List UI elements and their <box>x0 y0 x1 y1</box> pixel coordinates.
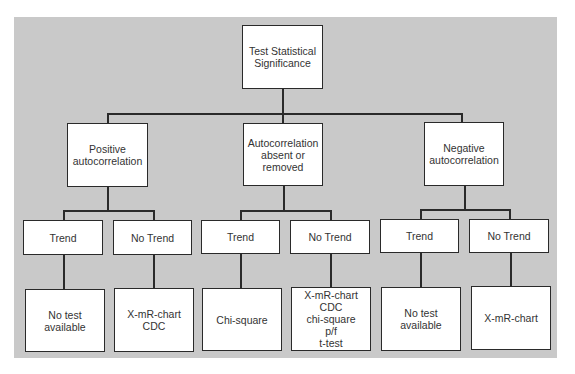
connector <box>107 113 462 115</box>
connector <box>420 209 422 219</box>
result-node: X-mR-chart CDC chi-square p/f t-test <box>291 287 371 351</box>
root-node: Test Statistical Significance <box>242 25 323 89</box>
connector <box>420 252 422 287</box>
result-node: No test available <box>25 289 105 352</box>
branch-node-label: Negative autocorrelation <box>429 142 498 166</box>
trend-node: Trend <box>380 219 459 253</box>
trend-node-label: Trend <box>406 230 433 242</box>
connector <box>153 254 155 289</box>
no-trend-node-label: No Trend <box>131 232 174 244</box>
connector <box>153 210 155 220</box>
connector <box>63 210 65 220</box>
connector <box>107 113 109 123</box>
connector <box>240 253 242 288</box>
trend-node-label: Trend <box>49 232 76 244</box>
no-trend-node-label: No Trend <box>487 230 530 242</box>
connector <box>510 252 512 287</box>
branch-node-positive-autocorrelation: Positive autocorrelation <box>67 123 148 187</box>
connector <box>282 88 284 123</box>
result-node: No test available <box>381 287 461 351</box>
trend-node: Trend <box>23 220 103 255</box>
connector <box>330 253 332 288</box>
connector <box>107 186 109 211</box>
result-node-label: No test available <box>400 307 441 331</box>
connector <box>240 210 242 220</box>
result-node-label: X-mR-chart CDC <box>127 308 181 332</box>
connector <box>283 186 285 211</box>
result-node-label: X-mR-chart <box>484 312 538 324</box>
result-node: X-mR-chart CDC <box>114 288 194 352</box>
connector <box>63 210 154 212</box>
branch-node-negative-autocorrelation: Negative autocorrelation <box>424 122 504 186</box>
branch-node-label: Positive autocorrelation <box>73 143 142 167</box>
result-node-label: No test available <box>44 309 85 333</box>
result-node-label: Chi-square <box>216 314 267 326</box>
no-trend-node: No Trend <box>469 219 549 253</box>
branch-node-autocorrelation-absent: Autocorrelation absent or removed <box>243 123 323 186</box>
connector <box>63 254 65 289</box>
connector <box>509 209 511 219</box>
connector <box>330 210 332 220</box>
no-trend-node: No Trend <box>113 220 192 255</box>
no-trend-node: No Trend <box>290 220 370 254</box>
result-node: X-mR-chart <box>471 286 551 350</box>
root-node-label: Test Statistical Significance <box>249 45 316 69</box>
result-node-label: X-mR-chart CDC chi-square p/f t-test <box>304 289 358 349</box>
trend-node-label: Trend <box>227 231 254 243</box>
branch-node-label: Autocorrelation absent or removed <box>248 137 319 173</box>
connector <box>464 186 466 210</box>
trend-node: Trend <box>201 220 280 254</box>
no-trend-node-label: No Trend <box>308 231 351 243</box>
result-node: Chi-square <box>202 288 282 351</box>
connector <box>240 210 331 212</box>
connector <box>420 209 510 211</box>
